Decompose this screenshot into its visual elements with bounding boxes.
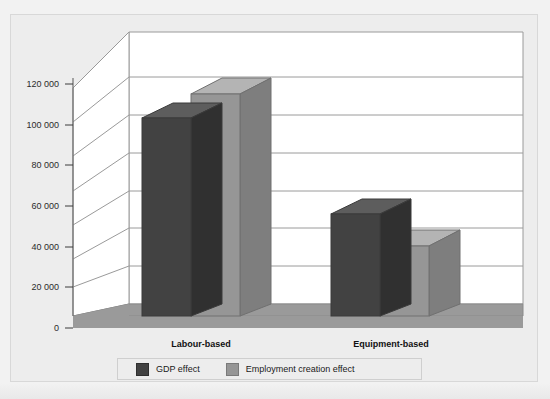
scan-noise-band <box>0 383 550 399</box>
legend-item-employment-creation-effect[interactable]: Employment creation effect <box>226 363 355 376</box>
category-label-labour: Labour-based <box>171 339 231 349</box>
category-label-equipment: Equipment-based <box>353 339 429 349</box>
legend-swatch-gdp-effect <box>136 363 149 376</box>
chart-frame: 120 000 100 000 80 000 60 000 40 000 20 … <box>10 14 538 382</box>
ytick-label-40000: 40 000 <box>31 242 59 252</box>
legend-swatch-employment-creation-effect <box>226 363 239 376</box>
ytick-label-100000: 100 000 <box>26 120 59 130</box>
chart-plot-area: 120 000 100 000 80 000 60 000 40 000 20 … <box>11 15 539 383</box>
bar-labour-employment-side <box>240 78 271 316</box>
legend-label-gdp-effect: GDP effect <box>156 364 200 374</box>
bar-labour-gdp-front <box>142 118 191 316</box>
chart-legend: GDP effect Employment creation effect <box>117 358 422 380</box>
ytick-label-60000: 60 000 <box>31 201 59 211</box>
ytick-label-0: 0 <box>54 323 59 333</box>
plot-floor-front <box>73 316 523 328</box>
plot-left-wall <box>73 32 129 316</box>
bar-labour-gdp[interactable] <box>142 103 222 316</box>
ytick-label-80000: 80 000 <box>31 160 59 170</box>
ytick-label-20000: 20 000 <box>31 282 59 292</box>
ytick-label-120000: 120 000 <box>26 79 59 89</box>
legend-item-gdp-effect[interactable]: GDP effect <box>136 363 200 376</box>
bar-equipment-gdp-front <box>331 214 380 316</box>
bar-equipment-gdp-side <box>380 199 411 316</box>
bar-equipment-gdp[interactable] <box>331 199 411 316</box>
bar-labour-gdp-side <box>191 103 222 316</box>
page-background: 120 000 100 000 80 000 60 000 40 000 20 … <box>0 0 550 399</box>
legend-label-employment-creation-effect: Employment creation effect <box>246 364 355 374</box>
bar-chart-3d: 120 000 100 000 80 000 60 000 40 000 20 … <box>11 15 539 383</box>
